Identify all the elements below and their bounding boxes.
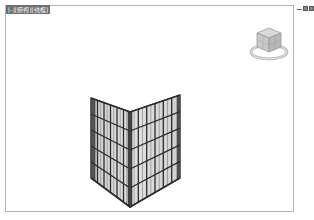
viewcube-widget[interactable] — [247, 22, 293, 66]
minimize-icon — [297, 6, 299, 11]
minimize-button[interactable] — [297, 6, 299, 11]
viewcube-icon[interactable] — [257, 28, 281, 52]
viewport-window-controls — [297, 6, 299, 11]
viewport-label[interactable]: [-][俯视][线框] — [6, 5, 50, 14]
